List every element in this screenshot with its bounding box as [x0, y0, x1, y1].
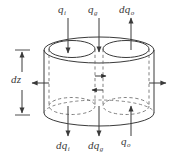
label-dqo: dqo [119, 4, 134, 15]
inner-cylinder-left-top-ellipse [49, 41, 95, 58]
label-dqg: dqg [88, 140, 103, 151]
label-dz: dz [11, 74, 21, 85]
label-qi: qi [58, 4, 66, 15]
inner-cylinder-right-bottom-ellipse [103, 98, 149, 115]
label-dqi: dqi [56, 140, 70, 151]
diagram-canvas: qi qg dqo dz dqi dqg qo [0, 0, 170, 164]
inner-cylinder-left-bottom-ellipse [49, 98, 95, 115]
control-volume-diagram [0, 0, 170, 164]
inner-cylinder-right-top-ellipse [103, 41, 149, 58]
label-qo: qo [121, 136, 130, 147]
label-qg: qg [88, 4, 97, 15]
